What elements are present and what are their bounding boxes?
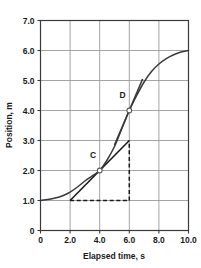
y-tick-label: 5.0 — [23, 76, 35, 86]
y-tick-label: 3.0 — [23, 136, 35, 146]
position-vs-time-chart: 02.04.06.08.010.0 01.02.03.04.05.06.07.0… — [0, 0, 201, 268]
label-point-C: C — [90, 150, 96, 160]
marker-point-D — [127, 108, 132, 113]
chart-figure: 02.04.06.08.010.0 01.02.03.04.05.06.07.0… — [0, 0, 201, 268]
x-tick-label: 0 — [38, 235, 43, 245]
x-tick-label: 4.0 — [94, 235, 106, 245]
x-tick-label: 10.0 — [180, 235, 197, 245]
y-tick-label: 4.0 — [23, 106, 35, 116]
y-tick-label: 1.0 — [23, 196, 35, 206]
x-axis-title: Elapsed time, s — [83, 251, 145, 261]
x-tick-label: 6.0 — [123, 235, 135, 245]
y-tick-label: 7.0 — [23, 16, 35, 26]
x-tick-label: 8.0 — [153, 235, 165, 245]
y-tick-label: 6.0 — [23, 46, 35, 56]
y-axis-title: Position, m — [4, 102, 14, 148]
marker-point-C — [97, 168, 102, 173]
x-tick-label: 2.0 — [64, 235, 76, 245]
y-tick-label: 2.0 — [23, 166, 35, 176]
y-tick-label: 0 — [30, 226, 35, 236]
label-point-D: D — [120, 90, 126, 100]
